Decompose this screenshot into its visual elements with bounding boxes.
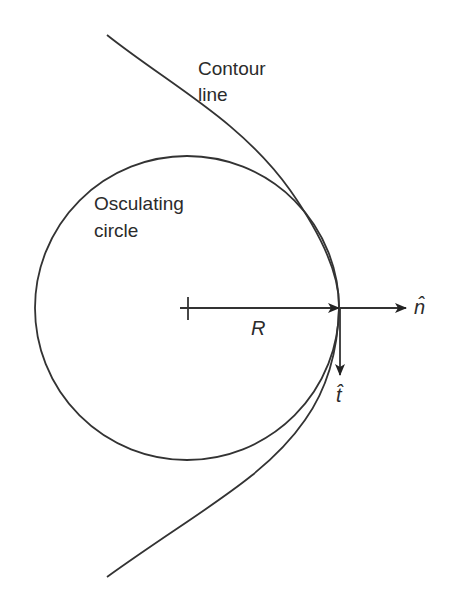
contour-label-line1: Contour [198, 58, 266, 79]
osculating-label-line2: circle [94, 220, 138, 241]
radius-label: R [251, 317, 265, 339]
tangent-vector-label: t̂ [336, 384, 344, 406]
contour-line-curve [107, 35, 339, 577]
contour-label-line2: line [198, 84, 228, 105]
osculating-label-line1: Osculating [94, 193, 184, 214]
osculating-circle-diagram: Contour line Osculating circle R n̂ t̂ [0, 0, 450, 604]
normal-vector-label: n̂ [414, 296, 425, 318]
